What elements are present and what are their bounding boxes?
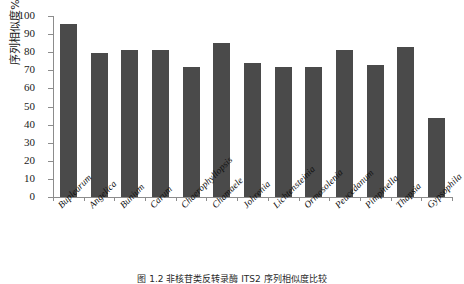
x-axis-tick [206,197,207,201]
y-axis-tick [48,52,53,53]
y-axis-tick-label: 70 [11,64,35,75]
y-axis-tick-label: 0 [11,191,35,202]
y-axis-tick-label: 40 [11,119,35,130]
y-axis-tick [48,161,53,162]
y-axis-tick-label: 20 [11,155,35,166]
chart-figure: 序列相似度% 0102030405060708090100 BupleurumA… [0,0,464,284]
bar [275,67,292,197]
y-axis-tick [48,16,53,17]
bar [121,50,138,197]
bar [397,47,414,197]
bar [60,24,77,197]
x-axis-line [53,197,453,198]
x-axis-tick [299,197,300,201]
y-axis-line [53,16,54,198]
y-axis-tick-label: 80 [11,46,35,57]
bar [183,67,200,197]
plot-area: 0102030405060708090100 [53,16,452,197]
y-axis-tick [48,107,53,108]
y-axis-tick-label: 100 [11,10,35,21]
y-axis-tick-label: 90 [11,28,35,39]
y-axis-tick [48,179,53,180]
bar [367,65,384,197]
y-axis-tick [48,143,53,144]
x-axis-tick [421,197,422,201]
bar [152,50,169,197]
y-axis-tick [48,88,53,89]
y-axis-tick-label: 60 [11,82,35,93]
bar [336,50,353,197]
x-axis-tick [268,197,269,201]
x-axis-tick [360,197,361,201]
y-axis-tick [48,125,53,126]
x-axis-tick [53,197,54,201]
x-axis-tick [145,197,146,201]
figure-caption: 图 1.2 非核苷类反转录酶 ITS2 序列相似度比较 [0,272,464,284]
x-axis-tick [452,197,453,201]
bar [305,67,322,197]
x-axis-tick [237,197,238,201]
bar [244,63,261,197]
bar [91,53,108,197]
y-axis-tick-label: 50 [11,101,35,112]
x-axis-tick [391,197,392,201]
y-axis-tick [48,70,53,71]
x-axis-tick [329,197,330,201]
y-axis-tick-label: 10 [11,173,35,184]
y-axis-tick [48,34,53,35]
bar [428,118,445,197]
x-axis-tick [176,197,177,201]
bar [213,43,230,197]
x-axis-tick [114,197,115,201]
y-axis-tick-label: 30 [11,137,35,148]
x-axis-tick [84,197,85,201]
